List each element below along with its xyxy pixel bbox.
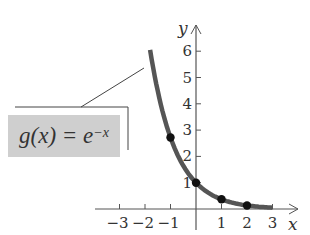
y-axis-label: y [177,18,188,38]
tick-labels: −3−2−1123123456 [106,42,277,232]
y-tick-label: 3 [182,121,192,139]
function-exponent: −x [93,125,109,141]
x-tick-label: 1 [217,214,227,232]
data-point [217,195,225,203]
data-point [243,201,251,209]
y-tick-label: 5 [182,69,192,87]
function-label-box: g(x) = e−x [8,115,120,157]
x-tick-label: −2 [132,214,154,232]
x-tick-label: 3 [268,214,278,232]
data-point [192,179,200,187]
x-tick-label: −3 [106,214,128,232]
function-label: g(x) = e [19,123,93,149]
function-curve [150,50,272,208]
x-tick-label: 2 [242,214,252,232]
data-points [166,133,251,209]
x-axis-label: x [288,214,298,234]
y-tick-label: 4 [182,95,192,113]
x-tick-label: −1 [157,214,179,232]
callout-pointer [81,68,144,107]
data-point [166,133,174,141]
y-tick-label: 6 [182,42,192,60]
